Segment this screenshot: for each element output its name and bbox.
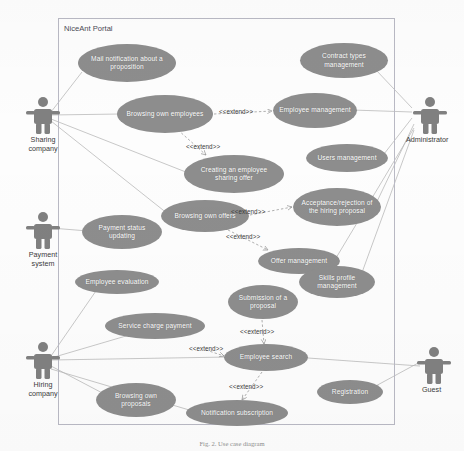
extend-label-submission-to-employee-search: <<extend>> xyxy=(240,328,274,335)
use-case-diagram: NiceAnt Portal Mail notification about a… xyxy=(0,0,464,451)
use-case-label: Submission of a proposal xyxy=(233,294,293,310)
use-case-service-charge-payment[interactable]: Service charge payment xyxy=(105,313,205,339)
use-case-label: Registration xyxy=(332,388,368,396)
figure-caption: Fig. 2. Use case diagram xyxy=(0,440,464,451)
extend-label-browsing-offers-to-acceptance: <<extend>> xyxy=(231,208,265,215)
use-case-creating-an-employee-sharing-offer[interactable]: Creating an employee sharing offer xyxy=(184,155,284,193)
use-case-label: Creating an employee sharing offer xyxy=(189,166,279,182)
actor-label: Administrator xyxy=(404,136,464,145)
use-case-label: Browsing own proposals xyxy=(101,392,171,408)
use-case-skills-profile-management[interactable]: Skills profile management xyxy=(299,266,375,298)
actor-guest[interactable]: Guest xyxy=(410,345,464,395)
use-case-label: Employee search xyxy=(240,353,292,361)
actor-stick-figure-icon xyxy=(410,345,464,385)
use-case-registration[interactable]: Registration xyxy=(317,380,383,404)
actor-sharing-company[interactable]: Sharing company xyxy=(16,95,70,153)
use-case-acceptance-rejection-of-the-hiring-proposal[interactable]: Acceptance/rejection of the hiring propo… xyxy=(293,188,381,226)
extend-label-browsing-offers-to-offer-management: <<extend>> xyxy=(226,233,260,240)
use-case-label: Acceptance/rejection of the hiring propo… xyxy=(298,199,376,215)
use-case-label: Browsing own offers xyxy=(174,212,235,220)
actor-stick-figure-icon xyxy=(16,340,70,380)
extend-label-browsing-employees-to-creating-offer: <<extend>> xyxy=(186,143,220,150)
actor-stick-figure-icon xyxy=(16,210,70,250)
system-boundary-title: NiceAnt Portal xyxy=(64,24,113,33)
use-case-label: Offer management xyxy=(271,257,327,265)
actor-payment-system[interactable]: Payment system xyxy=(16,210,70,268)
use-case-browsing-own-employees[interactable]: Browsing own employees xyxy=(117,95,213,133)
use-case-label: Mail notification about a proposition xyxy=(83,55,171,71)
use-case-browsing-own-offers[interactable]: Browsing own offers xyxy=(161,200,249,232)
extend-label-employee-search-to-notification: <<extend>> xyxy=(229,383,263,390)
use-case-notification-subscription[interactable]: Notification subscription xyxy=(186,400,288,426)
use-case-label: Service charge payment xyxy=(118,322,191,330)
use-case-users-management[interactable]: Users management xyxy=(306,144,388,172)
extend-label-browsing-employees-to-employee-management: <<extend>> xyxy=(219,108,253,115)
actor-stick-figure-icon xyxy=(16,95,70,135)
actor-label: Guest xyxy=(410,386,464,395)
use-case-submission-of-a-proposal[interactable]: Submission of a proposal xyxy=(228,285,298,319)
use-case-label: Payment status updating xyxy=(87,224,157,240)
actor-label: Sharing company xyxy=(16,136,70,153)
use-case-employee-management[interactable]: Employee management xyxy=(273,93,357,128)
use-case-label: Contract types management xyxy=(305,52,383,68)
use-case-employee-evaluation[interactable]: Employee evaluation xyxy=(75,270,159,294)
actor-hiring-company[interactable]: Hiring company xyxy=(16,340,70,398)
actor-stick-figure-icon xyxy=(404,95,464,135)
use-case-label: Users management xyxy=(317,154,376,162)
use-case-label: Browsing own employees xyxy=(127,110,204,118)
use-case-browsing-own-proposals[interactable]: Browsing own proposals xyxy=(96,383,176,417)
use-case-label: Notification subscription xyxy=(201,409,273,417)
actor-administrator[interactable]: Administrator xyxy=(404,95,464,145)
use-case-label: Employee management xyxy=(279,106,351,114)
use-case-mail-notification-about-a-proposition[interactable]: Mail notification about a proposition xyxy=(78,44,176,82)
actor-label: Hiring company xyxy=(16,381,70,398)
use-case-label: Employee evaluation xyxy=(85,278,148,286)
extend-label-service-charge-to-employee-search: <<extend>> xyxy=(189,345,223,352)
actor-label: Payment system xyxy=(16,251,70,268)
use-case-payment-status-updating[interactable]: Payment status updating xyxy=(82,215,162,249)
use-case-contract-types-management[interactable]: Contract types management xyxy=(300,43,388,78)
use-case-label: Skills profile management xyxy=(304,274,370,290)
use-case-employee-search[interactable]: Employee search xyxy=(224,344,308,371)
